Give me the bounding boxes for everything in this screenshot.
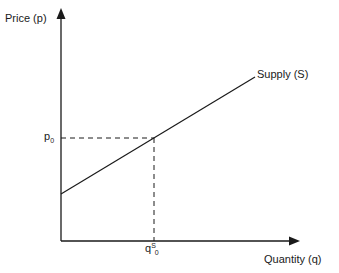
quantity-q0-label: qS0	[145, 243, 160, 254]
supply-curve	[61, 77, 255, 194]
price-marker-subscript: 0	[50, 137, 54, 144]
quantity-marker-superscript: S	[151, 242, 156, 249]
y-axis-arrow-icon	[57, 8, 66, 19]
price-p0-label: p0	[44, 131, 54, 142]
y-axis-label: Price (p)	[5, 13, 47, 24]
supply-curve-label: Supply (S)	[257, 69, 308, 80]
x-axis-arrow-icon	[289, 237, 300, 246]
x-axis-label: Quantity (q)	[264, 254, 321, 265]
quantity-marker-subscript: 0	[155, 249, 159, 256]
